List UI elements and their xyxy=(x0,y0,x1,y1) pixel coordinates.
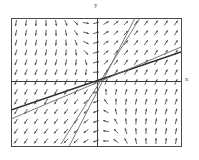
field-arrow-head xyxy=(65,73,67,75)
x-axis-label: x xyxy=(185,76,189,83)
field-arrow-head xyxy=(175,99,177,101)
field-arrow-head xyxy=(155,138,157,140)
field-arrow-head xyxy=(65,43,67,45)
field-arrow-head xyxy=(125,89,127,91)
field-arrow-head xyxy=(135,89,137,91)
field-arrow-head xyxy=(45,34,47,36)
field-arrow-head xyxy=(35,24,37,26)
field-arrow-head xyxy=(175,109,177,111)
field-arrow-head xyxy=(15,53,17,55)
field-arrow-head xyxy=(125,128,127,130)
field-group xyxy=(11,18,181,160)
field-arrow-head xyxy=(135,118,137,120)
field-arrow-head xyxy=(145,128,147,130)
field-arrow-head xyxy=(65,53,67,55)
field-arrow-head xyxy=(45,24,47,26)
direction-field-plot xyxy=(0,0,199,160)
field-arrow-head xyxy=(55,34,57,36)
trajectory-line-steep-line-a xyxy=(37,18,135,160)
field-arrow-head xyxy=(165,99,167,101)
y-axis-label: y xyxy=(94,2,98,9)
field-arrow-head xyxy=(25,63,27,65)
field-arrow-head xyxy=(155,99,157,101)
field-arrow-head xyxy=(35,63,37,65)
field-arrow-head xyxy=(103,140,105,142)
field-arrow-head xyxy=(135,128,137,130)
field-arrow-head xyxy=(125,109,127,111)
field-arrow-head xyxy=(105,89,107,91)
field-arrow-head xyxy=(145,138,147,140)
field-arrow-head xyxy=(45,63,47,65)
figure-canvas: y x xyxy=(0,0,199,160)
field-arrow-head xyxy=(55,43,57,45)
field-arrow-head xyxy=(115,99,117,101)
